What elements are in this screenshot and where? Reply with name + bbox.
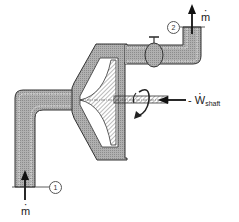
shaft-work-symbol: W bbox=[195, 95, 205, 106]
compressor-diagram bbox=[0, 0, 239, 222]
mdot-symbol: m bbox=[21, 206, 30, 217]
state-1-marker: 1 bbox=[49, 181, 62, 194]
valve-icon bbox=[145, 37, 163, 67]
inlet-pipe bbox=[15, 90, 75, 187]
inlet-mass-flow-label: m bbox=[21, 206, 30, 217]
shaft-work-label: - Wshaft bbox=[188, 95, 220, 107]
outlet-mass-flow-label: m bbox=[201, 12, 210, 23]
mdot-symbol: m bbox=[201, 12, 210, 23]
outlet-pipe bbox=[125, 27, 205, 64]
rotation-arrow-icon bbox=[133, 90, 149, 119]
shaft-work-subscript: shaft bbox=[205, 100, 220, 107]
shaft-work-sign: - bbox=[188, 94, 195, 106]
state-2-marker: 2 bbox=[167, 21, 180, 34]
